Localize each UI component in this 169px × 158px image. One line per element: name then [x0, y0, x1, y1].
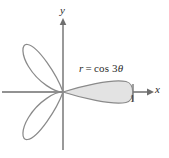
y-axis-label: y: [60, 5, 65, 16]
figure-canvas: [0, 0, 169, 158]
polar-rose-figure: y x 1 r=cos 3θ: [0, 0, 169, 158]
x-axis-label: x: [155, 84, 160, 95]
y-axis-arrowhead: [60, 18, 67, 25]
petal-upper-left: [23, 44, 63, 92]
equation-operator: =: [83, 62, 93, 74]
x-tick-label-one: 1: [130, 95, 135, 105]
petal-lower-left: [23, 92, 63, 140]
equation-annotation: r=cos 3θ: [79, 63, 123, 74]
equation-function: cos: [94, 62, 109, 74]
equation-variable: θ: [118, 62, 124, 74]
petal-right-shaded: [63, 81, 133, 103]
x-axis-arrowhead: [147, 89, 154, 96]
